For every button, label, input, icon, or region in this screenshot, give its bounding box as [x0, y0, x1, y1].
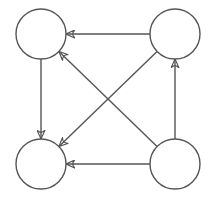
node-top-left	[16, 9, 66, 59]
directed-graph	[0, 0, 212, 200]
node-bottom-right	[150, 139, 200, 189]
edges-group	[41, 34, 175, 164]
node-top-right	[150, 9, 200, 59]
node-bottom-left	[16, 139, 66, 189]
